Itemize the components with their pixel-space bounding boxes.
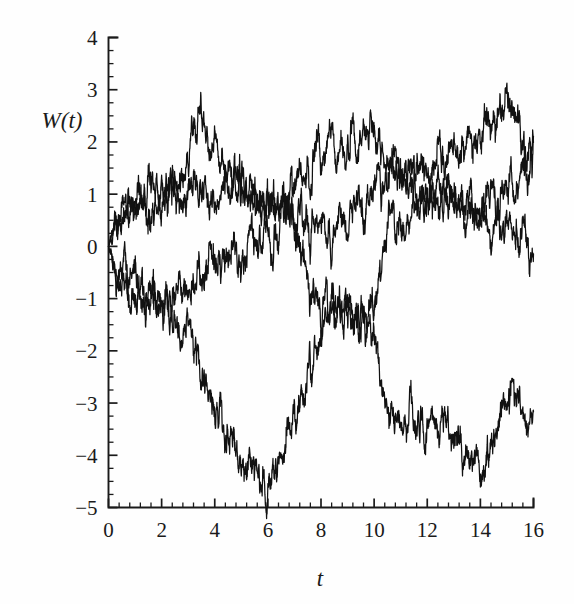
x-axis-title: t	[317, 566, 324, 591]
y-tick-label: 1	[87, 183, 98, 207]
x-tick-label: 10	[364, 518, 385, 542]
y-tick-label: 4	[87, 26, 98, 50]
y-tick-label: 0	[87, 235, 98, 259]
x-tick-label: 6	[263, 518, 274, 542]
y-tick-label: −2	[75, 339, 97, 363]
y-axis-title: W(t)	[42, 108, 83, 133]
x-tick-label: 2	[156, 518, 167, 542]
x-tick-label: 8	[316, 518, 327, 542]
x-tick-label: 12	[417, 518, 438, 542]
y-tick-label: −3	[75, 392, 97, 416]
brownian-motion-plot: −5−4−3−2−101234 0246810121416 W(t) t	[0, 0, 574, 604]
x-tick-label: 16	[523, 518, 544, 542]
x-tick-label: 0	[103, 518, 114, 542]
x-tick-label: 14	[470, 518, 492, 542]
y-tick-label: −5	[75, 496, 97, 520]
chart-figure: −5−4−3−2−101234 0246810121416 W(t) t	[0, 0, 574, 604]
y-tick-label: −1	[75, 287, 97, 311]
y-tick-label: 3	[87, 78, 98, 102]
x-tick-label: 4	[210, 518, 221, 542]
y-tick-label: 2	[87, 130, 98, 154]
y-tick-label: −4	[75, 444, 98, 468]
